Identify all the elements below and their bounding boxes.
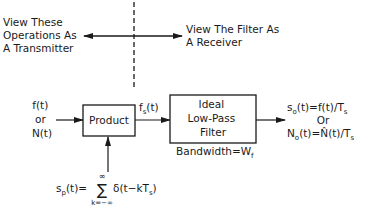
sum-lower-limit: k=−∞	[91, 199, 113, 207]
input-signal-label: f(t) or N(t)	[32, 99, 52, 139]
output-or-label: Or	[317, 114, 330, 126]
sampling-function-rhs: δ(t−kTs)	[113, 182, 157, 197]
sum-upper-limit: ∞	[99, 172, 106, 181]
bandwidth-label: Bandwidth=Wf	[176, 145, 254, 160]
sum-icon: ∑	[97, 181, 107, 199]
sampled-signal-label: fs(t)	[139, 101, 159, 116]
transmitter-note: View These Operations As A Transmitter	[3, 16, 80, 54]
sampling-function-lhs: sp(t)=	[56, 182, 87, 197]
output-signal-line3: No(t)=N̂(t)/Ts	[287, 127, 354, 142]
sampling-diagram: View These Operations As A Transmitter V…	[0, 0, 370, 214]
receiver-note: View The Filter As A Receiver	[186, 23, 282, 48]
product-label: Product	[89, 114, 129, 126]
